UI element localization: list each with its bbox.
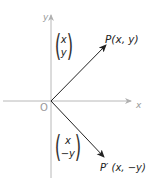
y-axis-label: y: [43, 13, 48, 22]
left-paren-icon: (: [55, 132, 61, 162]
column-vector-p-prime: ( x −y ): [52, 132, 84, 162]
point-p-prime-label: P′ (x, −y): [100, 163, 146, 173]
x-axis-label: x: [136, 101, 141, 110]
left-paren-icon: (: [55, 31, 61, 61]
point-p-label: P(x, y): [105, 34, 139, 45]
vector-p-prime-top: x: [65, 134, 71, 147]
right-paren-icon: ): [75, 132, 81, 162]
vector-p-prime-bottom: −y: [61, 147, 75, 160]
origin-label: O: [40, 103, 48, 113]
right-paren-icon: ): [66, 31, 72, 61]
column-vector-p: ( x y ): [52, 31, 75, 61]
